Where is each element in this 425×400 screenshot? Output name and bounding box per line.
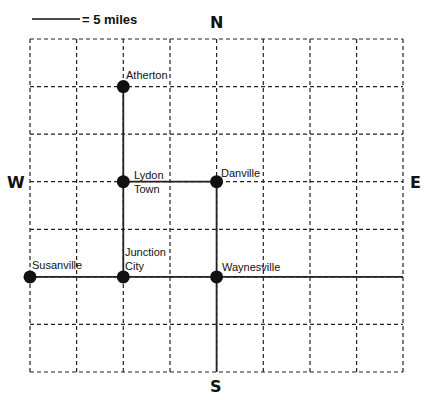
city-label: Atherton [126,69,168,81]
city-susanville: Susanville [24,259,83,283]
compass-south: S [210,377,222,396]
city-danville: Danville [210,167,260,188]
city-marker [24,270,37,283]
city-label: Susanville [32,259,82,271]
compass-north: N [210,13,223,32]
city-label: Lydon [134,169,164,181]
city-marker [117,270,130,283]
compass-east: E [410,173,421,192]
city-label: Town [134,183,160,195]
compass-west: W [7,173,25,192]
city-label: City [125,260,144,272]
city-marker [117,175,130,188]
map-diagram: = 5 miles Atherton Lydon Town [0,0,425,400]
city-label: Danville [221,167,260,179]
city-label: Waynesville [222,261,280,273]
city-marker [117,80,130,93]
city-atherton: Atherton [117,69,168,93]
city-label: Junction [125,246,166,258]
city-waynesville: Waynesville [210,261,280,283]
scale-label: = 5 miles [82,12,137,27]
